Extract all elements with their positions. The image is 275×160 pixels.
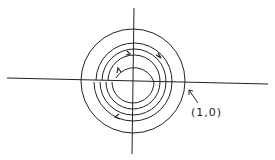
arrow-icon: [126, 51, 130, 55]
point-label: (1,0): [191, 106, 222, 119]
pointer-arrow: [189, 90, 198, 103]
x-axis: [7, 78, 268, 84]
phase-portrait-diagram: [0, 0, 275, 160]
arrow-icon: [115, 114, 120, 119]
